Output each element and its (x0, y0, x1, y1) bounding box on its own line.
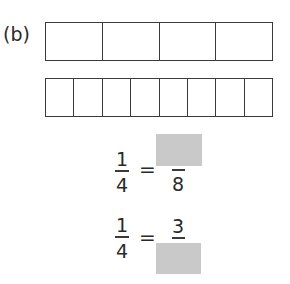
fraction-line (115, 170, 129, 172)
bar-cell (103, 23, 160, 60)
bar-cell (216, 79, 244, 116)
bar-cell (160, 23, 217, 60)
bar-cell (188, 79, 216, 116)
numerator: 3 (171, 217, 185, 235)
fraction-bar-eighths (45, 78, 273, 117)
bar-cell (46, 23, 103, 60)
denominator: 4 (115, 242, 129, 260)
bar-cell (103, 79, 131, 116)
fraction-line (172, 169, 185, 171)
fraction-one-quarter: 1 4 (115, 216, 129, 260)
bar-cell (216, 23, 272, 60)
equals-sign: = (139, 227, 156, 247)
part-label: (b) (3, 22, 30, 46)
denominator: 4 (115, 176, 129, 194)
equals-sign: = (139, 159, 156, 179)
denominator: 8 (171, 175, 185, 193)
numerator: 1 (115, 216, 129, 234)
numerator: 1 (115, 150, 129, 168)
fraction-bar-fourths (45, 22, 273, 61)
bar-cell (245, 79, 272, 116)
bar-cell (46, 79, 74, 116)
answer-box-numerator[interactable] (156, 134, 202, 166)
answer-box-denominator[interactable] (156, 243, 201, 274)
fraction-line (115, 236, 129, 238)
fraction-one-quarter: 1 4 (115, 150, 129, 194)
bar-cell (131, 79, 159, 116)
bar-cell (74, 79, 102, 116)
bar-cell (160, 79, 188, 116)
fraction-line (172, 237, 185, 239)
